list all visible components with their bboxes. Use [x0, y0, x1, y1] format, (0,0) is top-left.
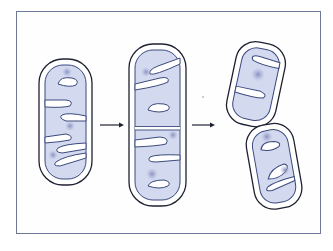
daughter-mitochondrion-top: [223, 38, 289, 131]
mitochondrion-stage-1: [39, 59, 92, 185]
arrow-1: [100, 123, 124, 128]
arrow-2: [192, 123, 215, 128]
mitochondria-diagram: [0, 0, 333, 251]
mitochondrion-stage-2: [129, 44, 186, 206]
daughter-mitochondrion-bottom: [243, 120, 305, 212]
